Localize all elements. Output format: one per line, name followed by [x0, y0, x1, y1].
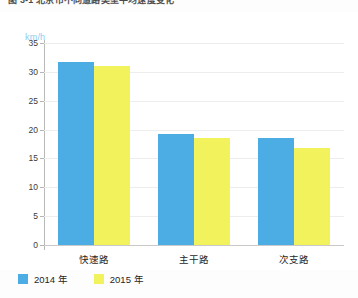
bar-group [158, 43, 230, 245]
bar-group [58, 43, 130, 245]
bar-2014[interactable] [58, 62, 94, 245]
y-axis-tick-label: 5 [33, 211, 38, 221]
legend-label: 2014 年 [34, 272, 68, 286]
x-axis-category-label: 主干路 [179, 252, 209, 266]
y-axis-tick-mark [40, 43, 44, 44]
chart-legend: 2014 年2015 年 [0, 272, 358, 298]
y-axis-tick-label: 15 [29, 153, 38, 163]
plot-area [44, 43, 344, 245]
y-axis-tick-mark [40, 130, 44, 131]
bar-2015[interactable] [94, 66, 130, 245]
y-axis-tick-mark [40, 72, 44, 73]
y-axis-tick-label: 0 [33, 240, 38, 250]
y-axis-tick-label: 10 [29, 182, 38, 192]
x-axis-category-label: 快速路 [79, 252, 109, 266]
y-axis-tick-mark [40, 216, 44, 217]
figure-caption: 图 3-1 北京市不同道路类型平均速度变化 [8, 0, 174, 6]
y-axis-tick-mark [40, 187, 44, 188]
legend-label: 2015 年 [110, 272, 144, 286]
legend-swatch-icon [18, 274, 28, 284]
x-axis-category-label: 次支路 [279, 252, 309, 266]
legend-item[interactable]: 2014 年 [18, 272, 68, 286]
bar-group [258, 43, 330, 245]
legend-item[interactable]: 2015 年 [94, 272, 144, 286]
y-axis-tick-label: 35 [29, 38, 38, 48]
y-axis-tick-mark [40, 101, 44, 102]
y-axis-tick-label: 30 [29, 67, 38, 77]
legend-swatch-icon [94, 274, 104, 284]
bar-2015[interactable] [194, 138, 230, 245]
gridline [44, 245, 344, 246]
bar-2014[interactable] [258, 138, 294, 245]
bar-2015[interactable] [294, 148, 330, 245]
y-axis-tick-label: 20 [29, 125, 38, 135]
y-axis-tick-mark [40, 158, 44, 159]
bar-chart: km/h 05101520253035 快速路主干路次支路 [0, 12, 358, 270]
y-axis-tick-label: 25 [29, 96, 38, 106]
y-axis-tick-mark [40, 245, 44, 246]
y-axis-tick-labels: 05101520253035 [18, 43, 38, 245]
bar-2014[interactable] [158, 134, 194, 245]
figure-caption-strip: 图 3-1 北京市不同道路类型平均速度变化 [0, 0, 358, 12]
